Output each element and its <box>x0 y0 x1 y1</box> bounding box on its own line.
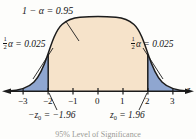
x-tick-label-0: 0 <box>95 97 100 106</box>
x-tick-label-neg2: −2 <box>43 97 53 106</box>
normal-curve-figure: 1 − α = 0.95 1 2 α = 0.025 1 2 α = 0.025… <box>0 0 196 139</box>
confidence-level-label: 1 − α = 0.95 <box>22 6 73 16</box>
confidence-level-value: 0.95 <box>56 5 74 16</box>
x-tick-label-2: 2 <box>145 97 150 106</box>
x-tick-label-1: 1 <box>120 97 125 106</box>
right-tail-alpha-text: α = <box>136 39 152 49</box>
left-tail-alpha-text: α = <box>8 39 24 49</box>
right-tail-alpha-value: 0.025 <box>152 39 173 49</box>
left-tail-alpha-value: 0.025 <box>24 39 45 49</box>
right-critical-value-annotation: z0 = 1.96 <box>110 111 145 121</box>
x-tick-label-neg1: −1 <box>68 97 78 106</box>
right-critical-equation: = 1.96 <box>117 110 145 120</box>
x-tick-label-3: 3 <box>170 97 175 106</box>
left-critical-equation: = −1.96 <box>41 110 75 120</box>
left-critical-value-annotation: −z0 = −1.96 <box>28 111 75 121</box>
x-axis-variable-label: z <box>187 85 190 94</box>
one-half-fraction-left: 1 2 <box>3 36 7 50</box>
confidence-level-prefix: 1 − α = <box>22 5 56 16</box>
left-tail-alpha-label: 1 2 α = 0.025 <box>3 36 46 50</box>
right-tail-alpha-label: 1 2 α = 0.025 <box>131 36 174 50</box>
figure-caption-fragment: 95% Level of Significance <box>0 131 196 139</box>
x-tick-label-neg3: −3 <box>18 97 28 106</box>
left-critical-prefix: −z <box>28 110 38 120</box>
one-half-fraction-right: 1 2 <box>131 36 135 50</box>
axis-left-arrowhead <box>2 88 11 94</box>
